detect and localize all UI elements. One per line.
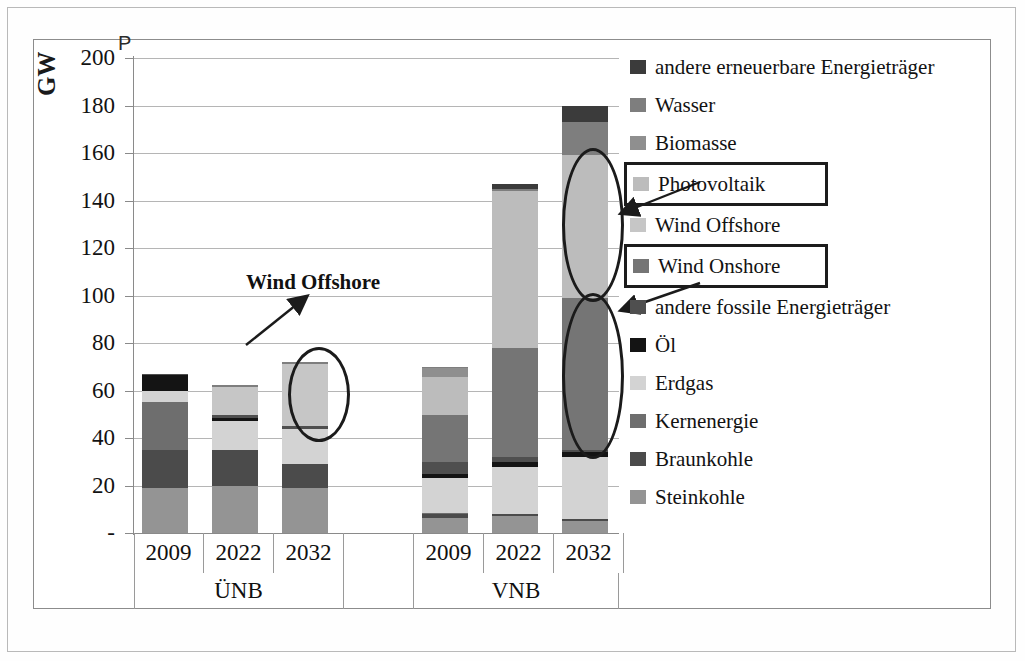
highlight-ellipse-vnb-2032-photovoltaik bbox=[562, 148, 624, 302]
axis-corner-label: P bbox=[118, 32, 131, 55]
bar-segment bbox=[562, 519, 608, 521]
legend-item[interactable]: Kernenergie bbox=[630, 402, 980, 440]
legend-label: Erdgas bbox=[655, 373, 713, 394]
x-axis-category-label: 2032 bbox=[274, 533, 344, 573]
bar-segment bbox=[212, 418, 258, 422]
legend-swatch-icon bbox=[630, 452, 646, 466]
legend-item[interactable]: Braunkohle bbox=[630, 440, 980, 478]
x-axis-group-row: ÜNBVNB bbox=[134, 573, 619, 609]
legend-label: Wind Offshore bbox=[655, 215, 780, 236]
y-axis-tick-label: 200 bbox=[55, 46, 115, 69]
bar-segment bbox=[142, 402, 188, 450]
chart-page: GW P 20018016014012010080604020- 2009202… bbox=[0, 0, 1025, 661]
y-axis-tick-label: 120 bbox=[55, 236, 115, 259]
y-axis-tick-label: 180 bbox=[55, 94, 115, 117]
y-axis-tick-label: - bbox=[55, 521, 115, 544]
x-axis-group-gap-cell bbox=[344, 573, 414, 609]
legend-item[interactable]: Photovoltaik bbox=[624, 162, 828, 206]
x-axis-group-label: ÜNB bbox=[134, 573, 344, 609]
bar-segment bbox=[422, 513, 468, 514]
x-axis-category-label: 2032 bbox=[554, 533, 624, 573]
legend-item[interactable]: andere fossile Energieträger bbox=[630, 288, 980, 326]
legend-swatch-icon bbox=[630, 60, 646, 74]
x-axis-category-row: 200920222032200920222032 bbox=[134, 533, 619, 573]
plot-area bbox=[134, 58, 619, 533]
legend-swatch-icon bbox=[630, 490, 646, 504]
legend: andere erneuerbare EnergieträgerWasserBi… bbox=[630, 48, 980, 516]
legend-label: Biomasse bbox=[655, 133, 737, 154]
legend-item[interactable]: Wind Offshore bbox=[630, 206, 980, 244]
bar-segment bbox=[282, 464, 328, 488]
legend-item[interactable]: Öl bbox=[630, 326, 980, 364]
legend-label: Braunkohle bbox=[655, 449, 753, 470]
bar-segment bbox=[422, 462, 468, 474]
bar-segment bbox=[282, 488, 328, 533]
legend-item[interactable]: Biomasse bbox=[630, 124, 980, 162]
legend-label: andere erneuerbare Energieträger bbox=[655, 57, 934, 78]
bar-segment bbox=[142, 488, 188, 533]
bar-segment bbox=[422, 377, 468, 415]
bar-segment bbox=[212, 421, 258, 450]
y-axis-tick-label: 100 bbox=[55, 284, 115, 307]
bar-segment bbox=[422, 474, 468, 479]
bar-segment bbox=[142, 374, 188, 375]
bar-segment bbox=[492, 189, 538, 191]
legend-swatch-icon bbox=[630, 98, 646, 112]
legend-item[interactable]: Wind Onshore bbox=[624, 244, 828, 288]
bar-segment bbox=[142, 375, 188, 390]
highlight-ellipse-unb-2032-wind-offshore bbox=[288, 347, 350, 442]
legend-label: Kernenergie bbox=[655, 411, 758, 432]
bar-segment bbox=[212, 450, 258, 486]
legend-swatch-icon bbox=[630, 300, 646, 314]
y-axis-tick-label: 160 bbox=[55, 141, 115, 164]
bar-segment bbox=[492, 184, 538, 189]
highlight-ellipse-vnb-2032-wind-onshore bbox=[562, 293, 624, 459]
bar-segment bbox=[422, 367, 468, 368]
bar-segment bbox=[562, 106, 608, 123]
bar-segment bbox=[492, 348, 538, 457]
legend-swatch-icon bbox=[630, 218, 646, 232]
bar-segment bbox=[422, 514, 468, 518]
bar-segment bbox=[492, 457, 538, 462]
x-axis-category-label: 2022 bbox=[204, 533, 274, 573]
bar-segment bbox=[422, 478, 468, 512]
bar-stack bbox=[212, 385, 258, 533]
bar-segment bbox=[212, 385, 258, 387]
legend-swatch-icon bbox=[630, 136, 646, 150]
legend-label: Wasser bbox=[655, 95, 715, 116]
bar-segment bbox=[492, 462, 538, 467]
y-axis-tick-label: 80 bbox=[55, 331, 115, 354]
legend-swatch-icon bbox=[630, 338, 646, 352]
legend-item[interactable]: andere erneuerbare Energieträger bbox=[630, 48, 980, 86]
legend-item[interactable]: Erdgas bbox=[630, 364, 980, 402]
legend-label: Öl bbox=[655, 335, 676, 356]
annotation-wind-offshore: Wind Offshore bbox=[246, 270, 380, 295]
bar-stack bbox=[142, 374, 188, 533]
y-axis-tick-label: 20 bbox=[55, 474, 115, 497]
bar-segment bbox=[142, 391, 188, 403]
bar-segment bbox=[142, 450, 188, 488]
bar-stack bbox=[492, 184, 538, 533]
y-axis-tick-label: 140 bbox=[55, 189, 115, 212]
bar-segment bbox=[492, 516, 538, 533]
legend-label: Photovoltaik bbox=[658, 174, 765, 195]
legend-swatch-icon bbox=[630, 376, 646, 390]
legend-swatch-icon bbox=[630, 414, 646, 428]
x-axis-category-label: 2009 bbox=[134, 533, 204, 573]
bar-segment bbox=[212, 387, 258, 416]
bar-stack bbox=[422, 367, 468, 533]
x-axis-category-label: 2009 bbox=[414, 533, 484, 573]
bar-segment bbox=[212, 415, 258, 417]
bar-segment bbox=[422, 368, 468, 378]
legend-item[interactable]: Wasser bbox=[630, 86, 980, 124]
legend-swatch-icon bbox=[633, 259, 649, 273]
bar-segment bbox=[492, 467, 538, 515]
legend-label: andere fossile Energieträger bbox=[655, 297, 890, 318]
bar-segment bbox=[562, 521, 608, 533]
bar-segment bbox=[562, 457, 608, 519]
bar-segment bbox=[212, 486, 258, 534]
bar-segment bbox=[422, 518, 468, 533]
x-axis-category-label: 2022 bbox=[484, 533, 554, 573]
legend-item[interactable]: Steinkohle bbox=[630, 478, 980, 516]
bar-segment bbox=[492, 514, 538, 516]
